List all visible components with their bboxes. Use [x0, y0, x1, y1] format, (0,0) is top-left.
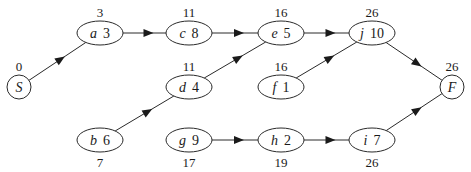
earliest-time-label: 7	[97, 155, 104, 170]
node-label: j10	[358, 26, 384, 41]
edge-c-e	[212, 29, 258, 37]
earliest-time-label: 16	[275, 59, 289, 74]
edge-j-F	[386, 42, 442, 80]
node-ellipse	[258, 128, 304, 152]
earliest-time-label: 26	[366, 155, 380, 170]
edges-layer	[29, 29, 442, 144]
activity-name: c	[179, 26, 186, 41]
node-label: S	[16, 80, 23, 95]
earliest-time-label: 16	[275, 5, 289, 20]
arrowhead-icon	[234, 136, 244, 144]
arrowhead-icon	[144, 29, 154, 37]
node-ellipse	[258, 75, 304, 99]
edge-b-d	[115, 96, 174, 131]
activity-network-diagram: S0a33b67c811d411g917e516f116h219j1026i72…	[0, 0, 471, 172]
arrowhead-icon	[326, 136, 336, 144]
node-a: a33	[77, 5, 123, 45]
earliest-time-label: 11	[183, 5, 196, 20]
activity-name: i	[364, 133, 368, 148]
earliest-time-label: 0	[16, 59, 23, 74]
node-ellipse	[77, 128, 123, 152]
activity-duration: 5	[284, 26, 291, 41]
earliest-time-label: 3	[97, 5, 104, 20]
activity-duration: 1	[282, 80, 289, 95]
edge-f-j	[296, 42, 357, 78]
earliest-time-label: 11	[183, 59, 196, 74]
arrowhead-icon	[326, 29, 336, 37]
node-label: F	[447, 80, 457, 95]
activity-name: h	[271, 133, 278, 148]
earliest-time-label: 17	[183, 155, 197, 170]
node-d: d411	[166, 59, 212, 99]
node-h: h219	[258, 128, 304, 170]
earliest-time-label: 26	[366, 5, 380, 20]
edge-S-a	[29, 42, 86, 80]
edge-d-e	[204, 42, 265, 78]
activity-name: g	[179, 133, 186, 148]
node-ellipse	[166, 128, 212, 152]
activity-name: a	[90, 26, 97, 41]
node-g: g917	[166, 128, 212, 170]
node-b: b67	[77, 128, 123, 170]
node-ellipse	[349, 128, 395, 152]
node-F: F26	[440, 59, 464, 99]
node-ellipse	[166, 75, 212, 99]
earliest-time-label: 19	[275, 155, 288, 170]
activity-duration: 3	[103, 26, 110, 41]
activity-name: F	[447, 80, 457, 95]
activity-duration: 8	[192, 26, 199, 41]
node-e: e516	[258, 5, 304, 45]
arrowhead-icon	[142, 105, 155, 117]
node-c: c811	[166, 5, 212, 45]
arrowhead-icon	[54, 53, 67, 65]
node-i: i726	[349, 128, 395, 170]
arrowhead-icon	[324, 52, 337, 64]
activity-name: b	[90, 133, 97, 148]
activity-duration: 10	[370, 26, 384, 41]
edge-a-c	[123, 29, 166, 37]
edge-g-h	[212, 136, 258, 144]
node-ellipse	[258, 21, 304, 45]
edge-i-F	[386, 94, 442, 131]
edge-h-i	[304, 136, 349, 144]
node-f: f116	[258, 59, 304, 99]
node-ellipse	[166, 21, 212, 45]
activity-duration: 9	[192, 133, 199, 148]
arrowhead-icon	[411, 58, 424, 70]
activity-duration: 4	[192, 80, 199, 95]
activity-name: S	[16, 80, 23, 95]
activity-duration: 7	[373, 133, 380, 148]
earliest-time-label: 26	[446, 59, 460, 74]
activity-duration: 2	[284, 133, 291, 148]
activity-duration: 6	[103, 133, 110, 148]
edge-e-j	[304, 29, 349, 37]
arrowhead-icon	[411, 104, 424, 116]
arrowhead-icon	[232, 52, 245, 64]
arrowhead-icon	[234, 29, 244, 37]
node-ellipse	[77, 21, 123, 45]
node-S: S0	[7, 59, 31, 99]
activity-name: e	[271, 26, 277, 41]
activity-name: d	[179, 80, 187, 95]
node-j: j1026	[349, 5, 395, 45]
